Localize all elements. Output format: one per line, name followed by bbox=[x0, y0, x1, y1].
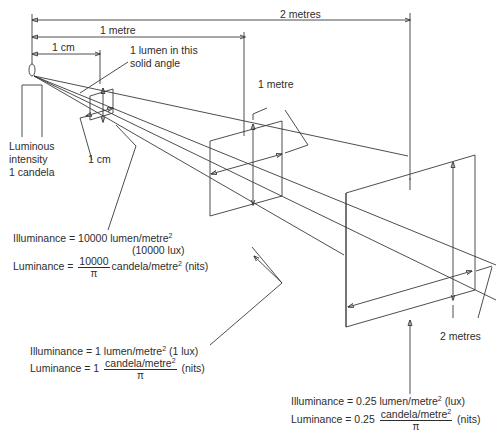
near-lux: (10000 lux) bbox=[132, 244, 185, 256]
light-source-icon bbox=[22, 64, 42, 137]
mid-luminance: Luminance = 1 candela/metre2π (nits) bbox=[30, 358, 205, 381]
label-1-cm-bottom: 1 cm bbox=[88, 153, 111, 165]
near-luminance-fraction: 10000π bbox=[78, 256, 109, 279]
near-illuminance: Illuminance = 10000 lumen/metre2 bbox=[13, 232, 172, 244]
source-label: Luminous intensity 1 candela bbox=[9, 140, 55, 179]
far-luminance: Luminance = 0.25 candela/metre2π (nits) bbox=[291, 409, 480, 432]
far-illuminance: Illuminance = 0.25 lumen/metre2 (lux) bbox=[291, 395, 465, 407]
middle-square-1m bbox=[210, 121, 282, 216]
solid-angle-leader bbox=[80, 62, 128, 93]
1-metre-leader-right bbox=[285, 110, 308, 153]
near-luminance: Luminance = 10000πcandela/metre2 (nits) bbox=[13, 256, 208, 279]
mid-pointer-arrow bbox=[254, 256, 282, 283]
label-2-metres: 2 metres bbox=[280, 8, 321, 20]
solid-angle-label: 1 lumen in this solid angle bbox=[130, 44, 198, 70]
1-metre-leader bbox=[253, 108, 267, 120]
label-2-metres-square: 2 metres bbox=[440, 330, 481, 342]
far-luminance-fraction: candela/metre2π bbox=[380, 409, 452, 432]
small-square-1cm bbox=[86, 88, 113, 122]
label-1-metre: 1 metre bbox=[100, 24, 136, 36]
label-1-metre-square: 1 metre bbox=[258, 78, 294, 90]
near-pointer bbox=[108, 125, 136, 230]
mid-illuminance: Illuminance = 1 lumen/metre2 (1 lux) bbox=[30, 345, 198, 357]
mid-luminance-fraction: candela/metre2π bbox=[104, 358, 176, 381]
large-square-2m bbox=[346, 155, 492, 327]
mid-pointer bbox=[210, 247, 282, 345]
label-1-cm-top: 1 cm bbox=[52, 41, 75, 53]
